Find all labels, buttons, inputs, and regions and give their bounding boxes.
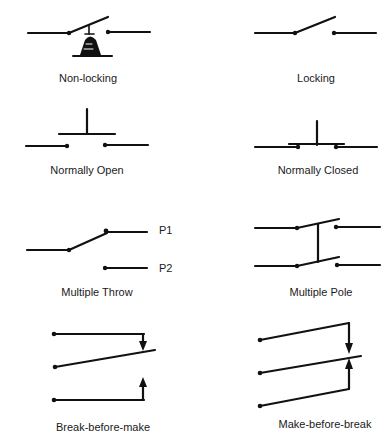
non-locking-symbol: [28, 17, 150, 56]
multiple-pole-label: Multiple Pole: [290, 286, 353, 298]
make-before-break-label: Make-before-break: [279, 418, 372, 430]
normally-open-label: Normally Open: [50, 164, 123, 176]
locking-symbol: [255, 17, 376, 35]
break-before-make-label: Break-before-make: [56, 421, 150, 433]
switch-symbols-diagram: [0, 0, 385, 443]
make-before-break-symbol: [258, 323, 361, 408]
normally-open-symbol: [26, 109, 148, 148]
normally-closed-label: Normally Closed: [278, 164, 359, 176]
multiple-pole-symbol: [255, 219, 380, 268]
multiple-throw-label: Multiple Throw: [61, 286, 132, 298]
multiple-throw-symbol: [27, 229, 147, 271]
terminal-p1-label: P1: [159, 224, 172, 236]
break-before-make-symbol: [52, 332, 155, 403]
locking-label: Locking: [297, 72, 335, 84]
terminal-p2-label: P2: [159, 262, 172, 274]
normally-closed-symbol: [255, 121, 377, 149]
non-locking-label: Non-locking: [59, 72, 117, 84]
